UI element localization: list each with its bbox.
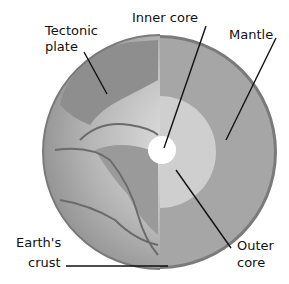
- label-earths-crust-2: crust: [28, 255, 61, 270]
- label-mantle: Mantle: [229, 27, 273, 42]
- label-outer-core-1: Outer: [237, 238, 275, 253]
- earth-diagram: Tectonic plate Inner core Mantle Earth's…: [0, 0, 289, 284]
- label-tectonic-plate-1: Tectonic: [44, 23, 98, 38]
- label-earths-crust-1: Earth's: [16, 235, 61, 250]
- inner-core-layer: [148, 136, 176, 164]
- label-tectonic-plate-2: plate: [45, 39, 78, 54]
- label-outer-core-2: core: [237, 255, 265, 270]
- label-inner-core: Inner core: [132, 10, 198, 25]
